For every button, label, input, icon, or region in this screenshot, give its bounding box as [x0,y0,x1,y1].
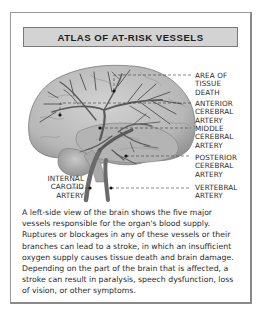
label-anterior-cerebral-artery: ANTERIOR CEREBRAL ARTERY [195,100,233,125]
label-vertebral-artery: VERTEBRAL ARTERY [195,184,237,201]
caption-text: A left-side view of the brain shows the … [22,207,242,297]
label-line: DEATH [195,89,227,97]
label-area-of-tissue-death: AREA OF TISSUE DEATH [195,72,227,97]
label-internal-carotid-artery: INTERNAL CAROTID ARTERY [22,175,84,200]
label-line: ARTERY [195,142,233,150]
label-middle-cerebral-artery: MIDDLE CEREBRAL ARTERY [195,125,233,150]
label-line: ARTERY [195,171,237,179]
label-posterior-cerebral-artery: POSTERIOR CEREBRAL ARTERY [195,154,237,179]
label-line: ARTERY [22,192,84,200]
label-line: ARTERY [195,192,237,200]
